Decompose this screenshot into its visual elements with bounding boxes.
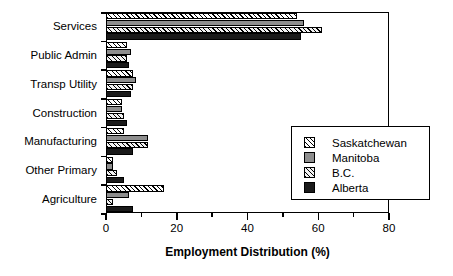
y-tick-0 — [101, 12, 106, 14]
employment-distribution-bar-chart: ServicesPublic AdminTransp UtilityConstr… — [0, 0, 453, 276]
bar-public-admin-alberta — [106, 62, 129, 68]
solid-black-swatch — [304, 182, 315, 193]
bar-manufacturing-b-c — [106, 142, 148, 148]
legend-label-saskatchewan: Saskatchewan — [332, 137, 407, 149]
hatch-white-swatch — [304, 137, 315, 148]
bar-services-manitoba — [106, 20, 304, 26]
bar-agriculture-alberta — [106, 206, 133, 212]
x-tick-minor-10 — [141, 213, 143, 217]
bar-services-saskatchewan — [106, 13, 297, 19]
y-tick-5 — [101, 156, 106, 158]
y-tick-3 — [101, 98, 106, 100]
x-tick-label-60: 60 — [312, 222, 325, 234]
x-tick-minor-70 — [353, 213, 355, 217]
x-tick-label-40: 40 — [241, 222, 254, 234]
bar-other-primary-saskatchewan — [106, 157, 113, 163]
y-axis-label-manufacturing: Manufacturing — [24, 135, 97, 147]
x-tick-major-20 — [176, 213, 178, 220]
bar-public-admin-saskatchewan — [106, 42, 127, 48]
y-axis-label-transp-utility: Transp Utility — [30, 78, 97, 90]
y-axis-label-other-primary: Other Primary — [25, 164, 97, 176]
legend-label-alberta: Alberta — [332, 182, 368, 194]
hatch-gray-swatch — [304, 167, 315, 178]
y-axis-label-services: Services — [53, 20, 97, 32]
bar-public-admin-manitoba — [106, 49, 131, 55]
bar-transp-utility-manitoba — [106, 77, 136, 83]
bar-manufacturing-alberta — [106, 148, 133, 154]
legend-item-saskatchewan: Saskatchewan — [304, 136, 407, 149]
legend-item-b-c: B.C. — [304, 166, 354, 179]
x-tick-major-80 — [388, 213, 390, 220]
legend-label-b-c: B.C. — [332, 167, 354, 179]
bar-transp-utility-b-c — [106, 84, 133, 90]
bar-agriculture-manitoba — [106, 192, 129, 198]
bar-other-primary-b-c — [106, 170, 117, 176]
bar-construction-manitoba — [106, 106, 122, 112]
x-tick-label-0: 0 — [103, 222, 109, 234]
bar-manufacturing-saskatchewan — [106, 128, 124, 134]
bar-transp-utility-saskatchewan — [106, 70, 133, 76]
bar-manufacturing-manitoba — [106, 135, 148, 141]
y-axis-label-construction: Construction — [32, 107, 97, 119]
bar-services-alberta — [106, 33, 301, 39]
solid-gray-swatch — [304, 152, 315, 163]
bar-other-primary-manitoba — [106, 163, 113, 169]
x-tick-major-0 — [105, 213, 107, 220]
bar-construction-alberta — [106, 120, 127, 126]
y-axis-label-public-admin: Public Admin — [31, 49, 97, 61]
y-tick-6 — [101, 184, 106, 186]
x-tick-label-20: 20 — [170, 222, 183, 234]
y-tick-1 — [101, 41, 106, 43]
x-tick-major-40 — [247, 213, 249, 220]
y-tick-4 — [101, 127, 106, 129]
bar-construction-b-c — [106, 113, 124, 119]
bar-public-admin-b-c — [106, 55, 127, 61]
legend: SaskatchewanManitobaB.C.Alberta — [291, 126, 430, 200]
x-tick-minor-30 — [211, 213, 213, 217]
x-tick-minor-50 — [282, 213, 284, 217]
bar-construction-saskatchewan — [106, 99, 122, 105]
bar-agriculture-b-c — [106, 199, 113, 205]
y-axis-labels: ServicesPublic AdminTransp UtilityConstr… — [0, 0, 101, 276]
y-axis-label-agriculture: Agriculture — [42, 193, 97, 205]
bar-transp-utility-alberta — [106, 91, 131, 97]
legend-item-manitoba: Manitoba — [304, 151, 379, 164]
legend-item-alberta: Alberta — [304, 181, 368, 194]
bar-services-b-c — [106, 27, 322, 33]
x-tick-label-80: 80 — [383, 222, 396, 234]
x-tick-major-60 — [318, 213, 320, 220]
x-axis-title: Employment Distribution (%) — [106, 245, 389, 259]
bar-agriculture-saskatchewan — [106, 185, 164, 191]
legend-label-manitoba: Manitoba — [332, 152, 379, 164]
y-tick-2 — [101, 69, 106, 71]
bar-other-primary-alberta — [106, 177, 124, 183]
